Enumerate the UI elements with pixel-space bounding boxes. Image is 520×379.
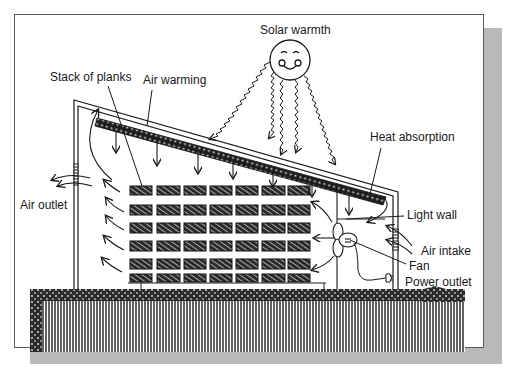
rising-air-arrows bbox=[90, 110, 124, 272]
fan-icon bbox=[333, 223, 357, 257]
label-light-wall: Light wall bbox=[407, 208, 457, 222]
air-outlet-arrows bbox=[52, 175, 92, 186]
warm-air-down-arrows bbox=[116, 130, 349, 214]
label-air-warming: Air warming bbox=[143, 73, 206, 87]
label-leaders bbox=[108, 86, 406, 264]
kiln-illustration bbox=[0, 0, 520, 379]
air-intake-arrows bbox=[387, 226, 412, 254]
label-solar-warmth: Solar warmth bbox=[260, 23, 331, 37]
label-stack-of-planks: Stack of planks bbox=[50, 70, 131, 84]
label-fan: Fan bbox=[409, 259, 430, 273]
plank-stack bbox=[130, 186, 310, 282]
label-heat-absorption: Heat absorption bbox=[370, 130, 455, 144]
sun-icon bbox=[270, 40, 310, 80]
label-power-outlet: Power outlet bbox=[405, 275, 472, 289]
label-air-outlet: Air outlet bbox=[20, 198, 67, 212]
ground-soil bbox=[30, 286, 465, 352]
air-intake-vent bbox=[393, 229, 398, 250]
power-cord bbox=[354, 243, 393, 282]
label-air-intake: Air intake bbox=[421, 244, 471, 258]
